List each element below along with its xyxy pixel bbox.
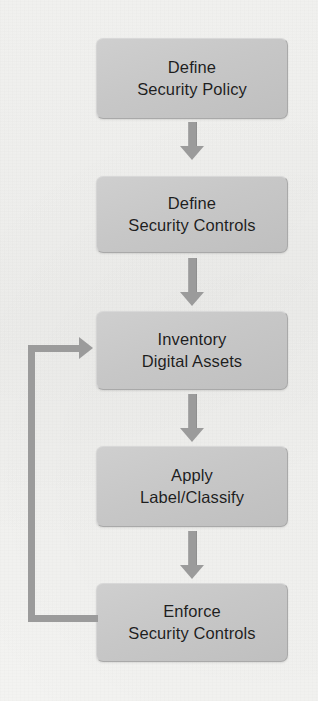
node-define-security-controls[interactable]: Define Security Controls <box>96 176 288 253</box>
arrow-inventory-to-apply <box>180 394 204 444</box>
arrow-head <box>180 292 204 306</box>
arrow-shaft <box>188 531 197 567</box>
arrow-policy-to-controls <box>180 122 204 160</box>
node-line-2: Digital Assets <box>142 351 242 373</box>
node-line-2: Security Controls <box>128 623 255 645</box>
feedback-loop-left-segment <box>28 345 35 622</box>
node-line-1: Inventory <box>158 329 227 351</box>
arrow-apply-to-enforce <box>180 531 204 581</box>
arrow-shaft <box>188 122 197 148</box>
node-line-2: Label/Classify <box>140 487 244 509</box>
node-apply-label-classify[interactable]: Apply Label/Classify <box>96 446 288 527</box>
feedback-loop-bottom-segment <box>28 615 98 622</box>
node-enforce-security-controls[interactable]: Enforce Security Controls <box>96 583 288 662</box>
node-line-1: Apply <box>171 465 213 487</box>
feedback-loop-top-segment <box>28 345 80 352</box>
arrow-shaft <box>188 394 197 430</box>
arrow-shaft <box>188 258 197 294</box>
arrow-head <box>180 428 204 442</box>
node-line-2: Security Controls <box>128 215 255 237</box>
feedback-loop-arrow-head <box>79 337 93 359</box>
node-line-1: Define <box>168 193 216 215</box>
node-line-1: Enforce <box>163 601 221 623</box>
flowchart-diagram: Define Security Policy Define Security C… <box>0 0 318 701</box>
arrow-head <box>180 146 204 160</box>
node-line-2: Security Policy <box>137 79 247 101</box>
node-define-security-policy[interactable]: Define Security Policy <box>96 38 288 119</box>
node-line-1: Define <box>168 57 216 79</box>
arrow-controls-to-inventory <box>180 258 204 308</box>
node-inventory-digital-assets[interactable]: Inventory Digital Assets <box>96 311 288 390</box>
arrow-head <box>180 565 204 579</box>
